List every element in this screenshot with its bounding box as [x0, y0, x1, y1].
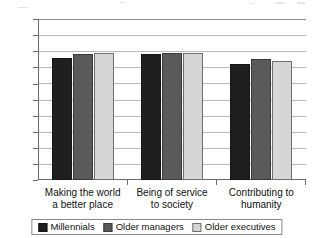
x-axis-tick [127, 180, 128, 185]
x-axis-tick [305, 180, 306, 185]
x-axis-label-line: Contributing to [229, 187, 294, 198]
x-axis-label-line: to society [127, 199, 216, 211]
bar-millennials [230, 64, 250, 180]
legend-item-millennials: Millennials [38, 222, 94, 232]
bar-groups [38, 19, 306, 180]
bar-older-managers [251, 59, 271, 180]
x-axis-label: Being of service to society [127, 187, 216, 210]
bar-group [127, 19, 216, 180]
scan-artifact [250, 3, 255, 4]
x-axis-label-line: a better place [38, 199, 127, 211]
x-axis-tick [216, 180, 217, 185]
legend-swatch-icon [193, 223, 202, 232]
bar-group [38, 19, 127, 180]
y-tick-mark [33, 180, 38, 181]
bar-older-executives [183, 53, 203, 180]
bar-millennials [52, 58, 72, 180]
bar-millennials [141, 54, 161, 180]
legend-swatch-icon [104, 223, 113, 232]
bar-older-executives [272, 61, 292, 180]
chart-legend: Millennials Older managers Older executi… [31, 219, 282, 235]
legend-label: Millennials [50, 222, 94, 232]
legend-swatch-icon [38, 223, 47, 232]
x-axis-label-line: humanity [217, 199, 306, 211]
legend-item-older-executives: Older executives [193, 222, 276, 232]
legend-item-older-managers: Older managers [104, 222, 184, 232]
scan-artifact [120, 2, 126, 3]
x-axis-label: Contributing to humanity [217, 187, 306, 210]
bar-group [217, 19, 306, 180]
scan-artifact [276, 2, 284, 4]
bar-chart: 100 90 80 70 60 50 40 30 20 10 0 [0, 0, 314, 238]
x-axis-label-line: Making the world [45, 187, 121, 198]
scan-artifact [18, 7, 28, 8]
x-axis-labels: Making the world a better place Being of… [38, 187, 306, 210]
x-axis-label-line: Being of service [136, 187, 207, 198]
scan-artifact [297, 2, 305, 4]
legend-label: Older managers [116, 222, 184, 232]
bar-older-managers [162, 53, 182, 180]
bar-older-executives [94, 53, 114, 180]
x-axis-label: Making the world a better place [38, 187, 127, 210]
bar-older-managers [73, 54, 93, 180]
legend-label: Older executives [205, 222, 276, 232]
